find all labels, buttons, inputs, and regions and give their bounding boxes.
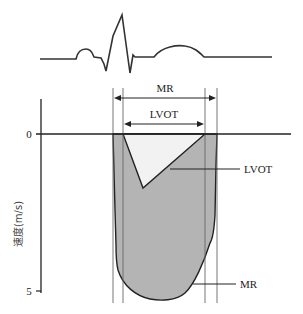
doppler-diagram: MR LVOT 0 5 速度(m/s) LVOT MR [0, 0, 303, 314]
mr-interval-arrow [114, 95, 216, 101]
ecg-trace [40, 15, 272, 73]
lvot-interval-arrow [124, 121, 204, 127]
mr-interval-label: MR [156, 82, 174, 94]
tick-label-0: 0 [26, 128, 32, 140]
lvot-callout-label: LVOT [244, 163, 273, 175]
y-axis-label: 速度(m/s) [12, 201, 24, 247]
tick-label-5: 5 [26, 285, 32, 297]
mr-callout-label: MR [240, 278, 258, 290]
lvot-interval-label: LVOT [150, 108, 179, 120]
